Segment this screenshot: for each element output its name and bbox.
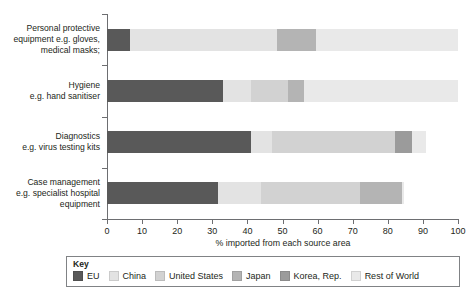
stacked-bar-chart: Personal protectiveequipment e.g. gloves…	[0, 0, 474, 293]
x-axis-tick-label: 0	[104, 226, 109, 236]
x-axis-tick	[353, 219, 354, 224]
bar-segment-eu	[107, 80, 223, 102]
stacked-bar	[107, 131, 426, 153]
bar-segment-rest-of-world	[316, 29, 458, 51]
bar-segment-japan	[360, 182, 402, 204]
x-axis-tick	[423, 219, 424, 224]
bar-segment-united-states	[272, 131, 395, 153]
x-axis-tick	[458, 219, 459, 224]
bar-segment-eu	[107, 182, 218, 204]
x-axis-tick	[318, 219, 319, 224]
x-axis-tick	[283, 219, 284, 224]
legend-swatch-china	[109, 271, 119, 281]
bar-segment-korea-rep	[395, 131, 413, 153]
y-axis-tick	[102, 168, 108, 169]
legend-item-label: EU	[87, 271, 100, 281]
x-axis-tick	[177, 219, 178, 224]
x-axis-tick	[388, 219, 389, 224]
legend-item-label: United States	[169, 271, 223, 281]
x-axis-tick-label: 30	[207, 226, 217, 236]
legend-item: EU	[73, 271, 100, 281]
x-axis-tick-label: 50	[277, 226, 287, 236]
bar-segment-china	[218, 182, 262, 204]
legend-swatch-united-states	[155, 271, 165, 281]
y-axis-tick	[102, 117, 108, 118]
bar-row	[0, 131, 474, 153]
legend-swatch-korea-rep	[280, 271, 290, 281]
x-axis-tick-label: 40	[242, 226, 252, 236]
legend-item: Japan	[232, 271, 271, 281]
legend-swatch-rest-of-world	[351, 271, 361, 281]
bar-row	[0, 80, 474, 102]
bar-row	[0, 29, 474, 51]
legend-item: Korea, Rep.	[280, 271, 342, 281]
bar-segment-china	[251, 131, 272, 153]
bar-segment-japan	[277, 29, 316, 51]
x-axis-tick-label: 60	[313, 226, 323, 236]
x-axis-title: % imported from each source area	[107, 238, 459, 248]
stacked-bar	[107, 29, 458, 51]
stacked-bar	[107, 80, 458, 102]
legend-title: Key	[73, 259, 89, 269]
y-axis-tick	[102, 65, 108, 66]
legend-item: Rest of World	[351, 271, 419, 281]
legend-item-group: EUChinaUnited StatesJapanKorea, Rep.Rest…	[73, 271, 428, 281]
x-axis-tick-label: 90	[418, 226, 428, 236]
bar-segment-united-states	[261, 182, 359, 204]
legend-item-label: Korea, Rep.	[294, 271, 342, 281]
y-axis-tick	[102, 14, 108, 15]
bar-segment-eu	[107, 29, 130, 51]
legend-item-label: China	[123, 271, 147, 281]
x-axis-tick	[247, 219, 248, 224]
bar-segment-japan	[288, 80, 304, 102]
legend-item-label: Japan	[246, 271, 271, 281]
legend-item-label: Rest of World	[365, 271, 419, 281]
x-axis-tick	[142, 219, 143, 224]
bar-segment-eu	[107, 131, 251, 153]
stacked-bar	[107, 182, 404, 204]
bar-segment-rest-of-world	[402, 182, 404, 204]
x-axis-tick	[212, 219, 213, 224]
x-axis-tick-label: 70	[348, 226, 358, 236]
legend-swatch-japan	[232, 271, 242, 281]
legend: Key EUChinaUnited StatesJapanKorea, Rep.…	[66, 256, 460, 287]
legend-item: China	[109, 271, 147, 281]
x-axis-tick-label: 80	[383, 226, 393, 236]
legend-swatch-eu	[73, 271, 83, 281]
bar-segment-rest-of-world	[412, 131, 426, 153]
x-axis-tick-label: 20	[172, 226, 182, 236]
x-axis-tick-label: 10	[137, 226, 147, 236]
bar-row	[0, 182, 474, 204]
legend-item: United States	[155, 271, 223, 281]
bar-segment-rest-of-world	[304, 80, 458, 102]
x-axis-tick-label: 100	[450, 226, 465, 236]
bar-segment-china	[223, 80, 251, 102]
bar-segment-united-states	[251, 80, 288, 102]
x-axis-tick	[107, 219, 108, 224]
bar-segment-china	[130, 29, 277, 51]
